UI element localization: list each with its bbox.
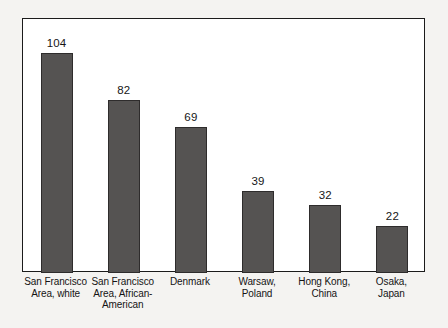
bar-group: 104 — [23, 19, 90, 273]
bar-value-label: 104 — [47, 37, 67, 50]
bar-group: 22 — [359, 19, 426, 273]
bar-value-label: 39 — [251, 175, 264, 188]
category-label-line: American — [81, 299, 165, 311]
bar-value-label: 82 — [117, 84, 130, 97]
plot-area-frame: 1048269393222 — [22, 18, 425, 272]
bar-group: 82 — [90, 19, 157, 273]
bar-group: 39 — [225, 19, 292, 273]
bar-chart-figure: 1048269393222 San FranciscoArea, whiteSa… — [0, 0, 448, 328]
bar — [376, 226, 408, 273]
bar-value-label: 69 — [184, 111, 197, 124]
category-label-line: Area, African- — [81, 288, 165, 300]
bar — [41, 53, 73, 273]
category-label-line: Japan — [349, 288, 433, 300]
bars-layer: 1048269393222 — [23, 19, 426, 273]
bar — [108, 100, 140, 273]
category-label: Osaka,Japan — [349, 276, 433, 299]
bar — [309, 205, 341, 273]
bar-value-label: 22 — [386, 210, 399, 223]
bar — [242, 191, 274, 274]
category-label-line: Osaka, — [349, 276, 433, 288]
category-axis: San FranciscoArea, whiteSan FranciscoAre… — [22, 276, 425, 324]
bar-group: 32 — [292, 19, 359, 273]
bar-group: 69 — [157, 19, 224, 273]
bar — [175, 127, 207, 273]
bar-value-label: 32 — [319, 189, 332, 202]
